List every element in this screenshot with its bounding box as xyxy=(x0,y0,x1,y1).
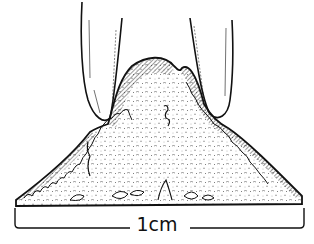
illustration-canvas: 1cm xyxy=(0,0,314,244)
cross-section-drawing xyxy=(0,0,314,244)
scale-label-text: 1cm xyxy=(131,213,182,235)
tissue-mound-cross-section xyxy=(16,58,302,206)
scale-bar-label: 1cm xyxy=(0,214,314,234)
